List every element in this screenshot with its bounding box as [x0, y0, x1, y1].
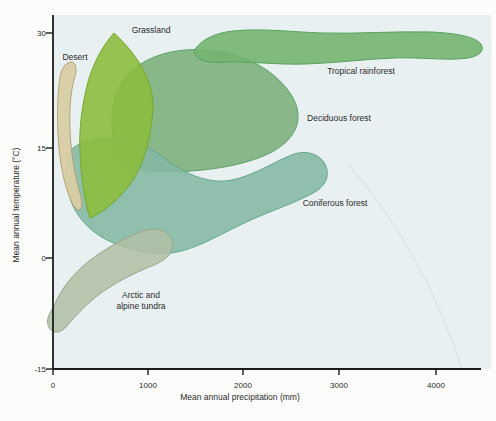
- biome-label-desert: Desert: [62, 52, 88, 62]
- biome-region-tropical-rainforest: [194, 30, 482, 64]
- x-tick-label-3000: 3000: [330, 381, 348, 390]
- x-tick-label-1000: 1000: [139, 381, 157, 390]
- biome-label-grassland: Grassland: [132, 25, 171, 35]
- x-tick-label-2000: 2000: [234, 381, 252, 390]
- biome-label-arctic-alpine-tundra-line1: Arctic and: [122, 290, 160, 300]
- y-tick-label-15: 15: [37, 144, 46, 153]
- biome-label-arctic-alpine-tundra-line2: alpine tundra: [116, 301, 165, 311]
- y-tick-label--15: -15: [34, 365, 46, 374]
- biome-label-coniferous-forest: Coniferous forest: [303, 198, 368, 208]
- x-tick-label-4000: 4000: [427, 381, 445, 390]
- y-tick-label-0: 0: [42, 254, 47, 263]
- biome-label-deciduous-forest: Deciduous forest: [307, 113, 371, 123]
- x-tick-label-0: 0: [51, 381, 56, 390]
- y-tick-label-30: 30: [37, 29, 46, 38]
- y-axis-title: Mean annual temperature (°C): [11, 147, 21, 262]
- biome-label-tropical-rainforest: Tropical rainforest: [327, 66, 395, 76]
- x-axis-title: Mean annual precipitation (mm): [180, 392, 300, 402]
- biome-chart: 0100020003000400030150-15Mean annual pre…: [0, 0, 496, 421]
- biome-figure: 0100020003000400030150-15Mean annual pre…: [0, 0, 496, 421]
